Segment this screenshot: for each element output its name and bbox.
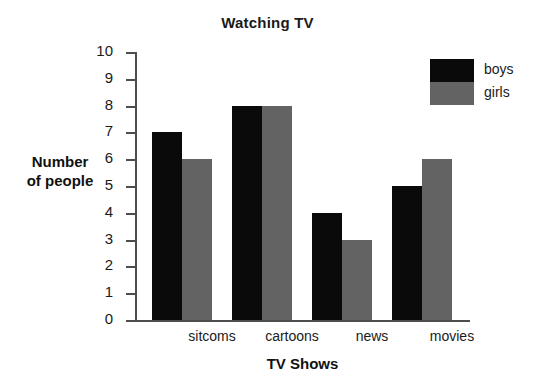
y-axis-tick-label: 6 <box>87 149 113 167</box>
y-axis-tick-label: 2 <box>87 256 113 274</box>
y-axis-tick: 6 <box>126 159 135 161</box>
bar-girls-cartoons <box>262 106 292 320</box>
y-axis-tick: 0 <box>126 320 135 322</box>
y-axis-tick: 8 <box>126 106 135 108</box>
y-axis-tick: 7 <box>126 132 135 134</box>
y-axis-tick: 2 <box>126 266 135 268</box>
y-axis-tick-label: 8 <box>87 96 113 114</box>
plot-area: 109876543210 sitcomscartoonsnewsmovies <box>135 52 470 320</box>
y-axis-tick: 1 <box>126 293 135 295</box>
y-axis-tick-label: 3 <box>87 230 113 248</box>
bar-girls-news <box>342 240 372 320</box>
y-axis-tick-label: 4 <box>87 203 113 221</box>
x-axis-line <box>135 320 470 322</box>
chart-page: Watching TV Number of people 10987654321… <box>0 0 535 384</box>
legend-label: girls <box>484 84 510 100</box>
bar-girls-movies <box>422 159 452 320</box>
legend-label: boys <box>484 61 514 77</box>
y-axis-line <box>135 52 137 321</box>
legend-swatch-boys <box>430 59 474 82</box>
x-axis-title: TV Shows <box>135 355 470 372</box>
y-axis-tick: 5 <box>126 186 135 188</box>
y-axis-tick-label: 7 <box>87 122 113 140</box>
x-axis-category-label: movies <box>392 328 512 344</box>
bar-boys-movies <box>392 186 422 320</box>
y-axis-tick-label: 0 <box>87 310 113 328</box>
y-axis-tick: 4 <box>126 213 135 215</box>
y-axis-tick-label: 5 <box>87 176 113 194</box>
legend-swatch-girls <box>430 82 474 105</box>
bar-girls-sitcoms <box>182 159 212 320</box>
y-axis-tick-label: 10 <box>87 42 113 60</box>
bar-boys-news <box>312 213 342 320</box>
y-axis-tick-label: 9 <box>87 69 113 87</box>
y-axis-tick: 3 <box>126 240 135 242</box>
bar-boys-sitcoms <box>152 132 182 320</box>
y-axis-tick: 10 <box>126 52 135 54</box>
bar-boys-cartoons <box>232 106 262 320</box>
y-axis-tick-label: 1 <box>87 283 113 301</box>
page-title: Watching TV <box>0 14 535 31</box>
y-axis-tick: 9 <box>126 79 135 81</box>
